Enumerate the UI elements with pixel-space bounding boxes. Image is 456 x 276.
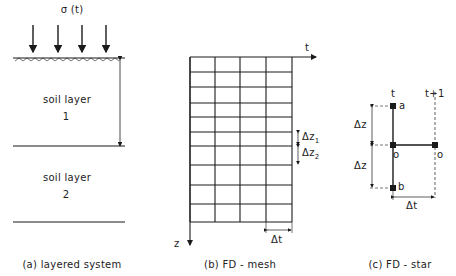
dz2-label: Δz2	[302, 147, 319, 161]
caption-a: (a) layered system	[22, 259, 121, 270]
node-o	[390, 142, 396, 148]
node-o2-label: o	[437, 149, 443, 160]
diagram-canvas	[0, 0, 456, 276]
load-label: σ (t)	[61, 4, 84, 15]
t-axis-label: t	[305, 42, 309, 53]
caption-b: (b) FD - mesh	[204, 259, 276, 270]
layer2-number: 2	[63, 189, 70, 200]
dt-star-label: Δt	[406, 200, 417, 211]
z-axis-label: z	[174, 238, 180, 249]
node-b	[390, 185, 396, 191]
panel-b-fd-mesh	[190, 57, 316, 245]
node-a	[390, 103, 396, 109]
t-label: t	[391, 88, 395, 99]
dz1-label: Δz1	[302, 131, 319, 145]
dt-label: Δt	[271, 234, 282, 245]
node-o2	[432, 142, 438, 148]
load-arrows	[33, 25, 106, 52]
layer1-name: soil layer	[43, 94, 91, 105]
node-a-label: a	[399, 100, 405, 111]
dz-lower-label: Δz	[354, 160, 367, 171]
t1-label: t+1	[425, 88, 445, 99]
dz-upper-label: Δz	[354, 119, 367, 130]
layer1-number: 1	[63, 111, 70, 122]
node-b-label: b	[398, 181, 405, 192]
node-o-label: o	[393, 149, 399, 160]
caption-c: (c) FD - star	[368, 259, 431, 270]
layer2-name: soil layer	[43, 172, 91, 183]
